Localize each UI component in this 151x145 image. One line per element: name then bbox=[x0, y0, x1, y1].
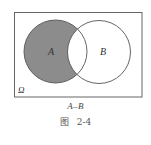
universe-label: Ω bbox=[18, 85, 25, 95]
set-a-label: A bbox=[47, 46, 55, 57]
figure-caption-number: 2-4 bbox=[77, 117, 92, 127]
figure-caption-prefix: 图 bbox=[60, 117, 69, 127]
set-expression: A–B bbox=[0, 101, 151, 111]
set-b-label: B bbox=[100, 46, 106, 57]
figure-caption: 图2-4 bbox=[0, 115, 151, 128]
